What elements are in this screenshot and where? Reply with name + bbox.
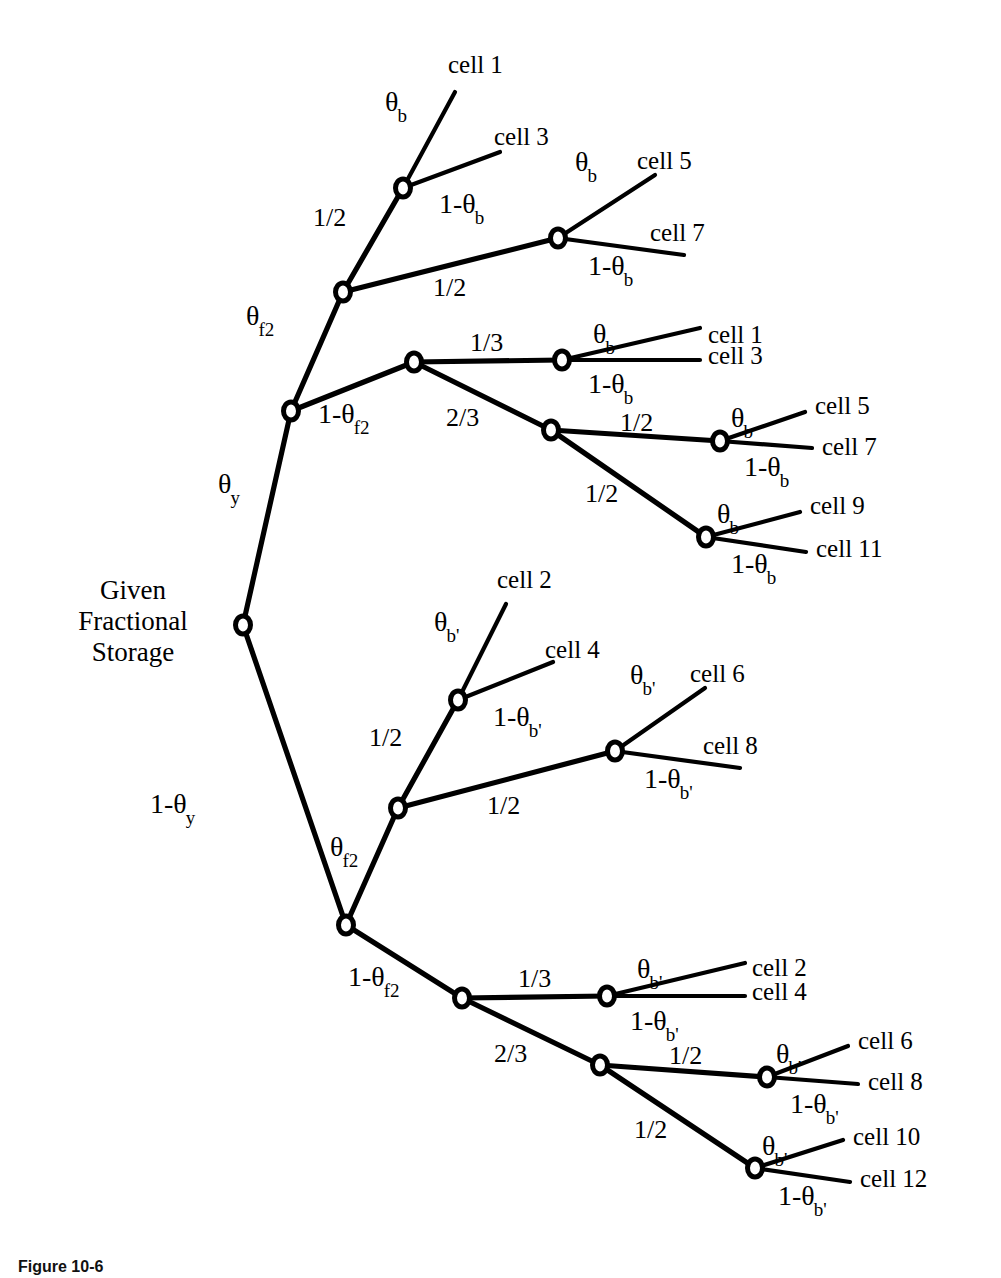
tree-node[interactable] xyxy=(284,402,299,420)
tree-node[interactable] xyxy=(339,916,354,934)
root-label-line: Given xyxy=(48,575,218,606)
edge-probability-label: 1-θf2 xyxy=(318,400,371,433)
edge-probability-label: θb xyxy=(717,500,740,533)
leaf-cell-label: cell 7 xyxy=(650,220,705,245)
tree-edge xyxy=(551,430,706,537)
edge-probability-label: 1/2 xyxy=(313,205,346,231)
edge-probability-label: 1-θb' xyxy=(778,1182,828,1215)
leaf-cell-label: cell 4 xyxy=(545,637,600,662)
edge-probability-label: 1/2 xyxy=(433,275,466,301)
leaf-cell-label: cell 3 xyxy=(494,124,549,149)
tree-edge xyxy=(562,328,700,360)
leaf-cell-label: cell 7 xyxy=(822,434,877,459)
edge-probability-label: 1-θb' xyxy=(644,765,694,798)
edge-probability-label: θb xyxy=(593,320,616,353)
edge-probability-label: 1-θb xyxy=(439,190,485,223)
tree-edge xyxy=(414,360,562,362)
tree-node[interactable] xyxy=(760,1068,775,1086)
edge-probability-label: θb' xyxy=(776,1040,802,1073)
tree-node[interactable] xyxy=(555,351,570,369)
tree-node[interactable] xyxy=(455,989,470,1007)
tree-node[interactable] xyxy=(544,421,559,439)
leaf-cell-label: cell 5 xyxy=(637,148,692,173)
tree-edge xyxy=(600,1065,755,1168)
edge-probability-label: 1/2 xyxy=(487,793,520,819)
edge-probability-label: 1-θy xyxy=(150,790,196,823)
edge-probability-label: 1-θb xyxy=(588,370,634,403)
edge-probability-label: 1/2 xyxy=(585,481,618,507)
tree-node[interactable] xyxy=(699,528,714,546)
edge-probability-label: 1/3 xyxy=(518,966,551,992)
figure-caption: Figure 10-6 xyxy=(18,1258,103,1276)
edge-probability-label: 1-θb' xyxy=(790,1090,840,1123)
tree-node[interactable] xyxy=(748,1159,763,1177)
tree-edge xyxy=(615,688,705,751)
tree-node[interactable] xyxy=(407,353,422,371)
leaf-cell-label: cell 8 xyxy=(703,733,758,758)
tree-node[interactable] xyxy=(451,691,466,709)
leaf-cell-label: cell 12 xyxy=(860,1166,927,1191)
root-label-line: Fractional xyxy=(48,606,218,637)
tree-edge xyxy=(243,625,346,925)
edge-probability-label: 1/2 xyxy=(369,725,402,751)
edge-probability-label: 1/3 xyxy=(470,330,503,356)
leaf-cell-label: cell 3 xyxy=(708,343,763,368)
leaf-cell-label: cell 6 xyxy=(690,661,745,686)
edge-probability-label: θb xyxy=(575,148,598,181)
edge-probability-label: 2/3 xyxy=(494,1041,527,1067)
leaf-cell-label: cell 6 xyxy=(858,1028,913,1053)
root-label: GivenFractionalStorage xyxy=(48,575,218,667)
tree-node[interactable] xyxy=(551,229,566,247)
edge-probability-label: θb' xyxy=(762,1132,788,1165)
tree-node[interactable] xyxy=(236,616,251,634)
tree-edge xyxy=(243,411,291,625)
figure-canvas: θy1-θyθf21-θf21/21/2θb1-θbθb1-θb1/32/3θb… xyxy=(0,0,1001,1278)
edge-probability-label: 1/2 xyxy=(669,1043,702,1069)
edge-probability-label: 1-θb xyxy=(731,550,777,583)
tree-edge xyxy=(767,1077,858,1084)
tree-node[interactable] xyxy=(593,1056,608,1074)
leaf-cell-label: cell 1 xyxy=(448,52,503,77)
tree-edge xyxy=(414,362,551,430)
edge-probability-label: θb xyxy=(731,404,754,437)
root-label-line: Storage xyxy=(48,637,218,668)
tree-node[interactable] xyxy=(608,742,623,760)
edge-probability-label: 1-θb xyxy=(588,252,634,285)
leaf-cell-label: cell 2 xyxy=(497,567,552,592)
tree-node[interactable] xyxy=(336,283,351,301)
tree-node[interactable] xyxy=(600,987,615,1005)
leaf-cell-label: cell 11 xyxy=(816,536,882,561)
leaf-cell-label: cell 9 xyxy=(810,493,865,518)
tree-edge xyxy=(558,175,655,238)
edge-probability-label: 1/2 xyxy=(634,1117,667,1143)
edge-probability-label: 2/3 xyxy=(446,405,479,431)
tree-edge xyxy=(462,998,600,1065)
tree-node[interactable] xyxy=(396,179,411,197)
edge-probability-label: θf2 xyxy=(246,302,275,335)
edge-probability-label: 1/2 xyxy=(620,410,653,436)
tree-edge xyxy=(343,188,403,292)
tree-edge xyxy=(607,963,745,996)
tree-node[interactable] xyxy=(391,799,406,817)
leaf-cell-label: cell 2 xyxy=(752,955,807,980)
edge-probability-label: θf2 xyxy=(330,833,359,866)
edge-probability-label: 1-θb' xyxy=(493,703,543,736)
leaf-cell-label: cell 5 xyxy=(815,393,870,418)
edge-probability-label: θb' xyxy=(434,608,460,641)
leaf-cell-label: cell 10 xyxy=(853,1124,920,1149)
edge-probability-label: 1-θf2 xyxy=(348,963,401,996)
tree-edge xyxy=(398,700,458,808)
edge-probability-label: θy xyxy=(218,470,241,503)
tree-edge xyxy=(720,441,812,448)
tree-edge xyxy=(462,996,607,998)
tree-node[interactable] xyxy=(713,432,728,450)
leaf-cell-label: cell 8 xyxy=(868,1069,923,1094)
edge-probability-label: 1-θb' xyxy=(630,1007,680,1040)
edge-probability-label: θb' xyxy=(637,955,663,988)
edge-probability-label: 1-θb xyxy=(744,453,790,486)
edge-probability-label: θb' xyxy=(630,661,656,694)
leaf-cell-label: cell 4 xyxy=(752,979,807,1004)
edge-probability-label: θb xyxy=(385,88,408,121)
